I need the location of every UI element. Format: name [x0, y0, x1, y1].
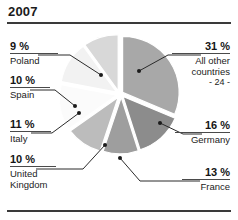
leader-dot-other [137, 69, 141, 73]
label-uk-rule [10, 166, 56, 167]
label-italy-name: Italy [10, 133, 51, 144]
label-spain-name: Spain [10, 89, 50, 100]
page-title: 2007 [8, 4, 38, 19]
label-germany: 16 % Germany [175, 119, 230, 145]
label-italy: 11 % Italy [10, 118, 51, 144]
leader-dot-spain [73, 104, 77, 108]
pie-chart-figure: 2007 [0, 0, 238, 220]
label-poland-name: Poland [10, 55, 58, 66]
leader-dot-italy [77, 111, 81, 115]
label-spain-percent: 10 % [10, 74, 50, 86]
label-other-percent: 31 % [172, 40, 230, 52]
leader-dot-france [118, 156, 122, 160]
label-france: 13 % France [182, 166, 230, 192]
label-other-sublabel: - 24 - [172, 77, 230, 88]
label-poland: 9 % Poland [10, 40, 58, 66]
label-other-name-line2: countries [172, 66, 230, 77]
leader-dot-uk [103, 143, 107, 147]
label-other-name-line1: All other [172, 55, 230, 66]
leader-dot-poland [99, 73, 103, 77]
pie-slices [59, 35, 179, 154]
label-uk-percent: 10 % [10, 153, 56, 165]
label-germany-percent: 16 % [175, 119, 230, 131]
label-poland-rule [10, 53, 58, 54]
label-france-rule [182, 179, 230, 180]
label-all-other-countries: 31 % All other countries - 24 - [172, 40, 230, 88]
label-poland-percent: 9 % [10, 40, 58, 52]
label-france-percent: 13 % [182, 166, 230, 178]
bottom-divider [7, 210, 231, 212]
label-germany-rule [175, 132, 230, 133]
label-spain: 10 % Spain [10, 74, 50, 100]
label-italy-percent: 11 % [10, 118, 51, 130]
label-italy-rule [10, 131, 51, 132]
label-other-rule [172, 53, 230, 54]
label-uk-name-line2: Kingdom [10, 179, 56, 190]
label-spain-rule [10, 87, 50, 88]
label-uk-name-line1: United [10, 168, 56, 179]
label-france-name: France [182, 181, 230, 192]
label-united-kingdom: 10 % United Kingdom [10, 153, 56, 190]
label-germany-name: Germany [175, 134, 230, 145]
leader-dot-germany [158, 121, 162, 125]
